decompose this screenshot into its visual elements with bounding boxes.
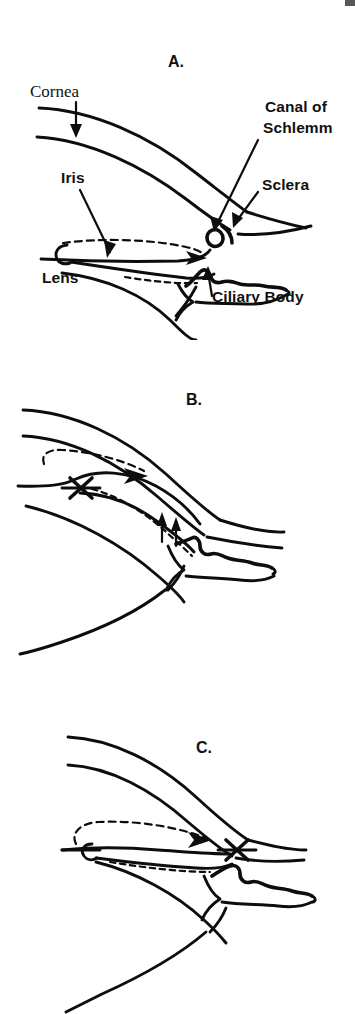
ciliary-body-processes [176,537,272,568]
panel-c-angle-closure: C. [0,680,355,1014]
ciliary-body-arrowhead [202,266,214,280]
scan-artifact [345,0,355,6]
panel-letter-a: A. [168,53,184,70]
sclera-inner-limb [207,537,282,548]
label-canal-of-schlemm-line1: Canal of [265,98,328,115]
ciliary-body-root [176,284,193,320]
cornea-outer-curve [23,410,220,520]
sclera-inner-limb [238,226,311,235]
cornea-inner-curve [68,765,232,856]
ciliary-body-pars-plana [222,902,312,907]
label-iris: Iris [61,169,85,186]
scleral-spur [312,896,315,902]
iris-posterior-surface [71,262,214,278]
aqueous-flow-anterior-dashed [63,240,205,255]
sclera-outer-limb [247,212,306,228]
label-lens: Lens [42,269,79,286]
label-canal-of-schlemm-line2: Schlemm [263,119,333,136]
label-cornea: Cornea [30,82,80,101]
cornea-arrowhead [70,124,82,138]
aqueous-flow-arrowhead [186,251,207,265]
ciliary-body-root [202,876,220,920]
panel-a-normal-anatomy: A. Cornea Canal of Schlemm Sclera Iris L… [0,40,355,340]
iris-anterior-surface [41,250,210,261]
label-sclera: Sclera [262,176,309,193]
ciliary-body-processes [212,865,312,896]
lens-posterior-capsule [66,932,206,1012]
lens-posterior-capsule [20,590,165,654]
lens-equator [210,908,226,932]
ciliary-body-processes [186,270,286,290]
panel-b-pupillary-block: B. [0,370,355,660]
panel-letter-b: B. [186,391,202,408]
cornea-outer-curve [39,108,247,212]
sclera-outer-limb [220,520,284,532]
iris-arrowhead [104,240,116,258]
scleral-spur [272,568,275,574]
figure-root: A. Cornea Canal of Schlemm Sclera Iris L… [0,0,355,1014]
aqueous-flow-arrowhead [188,832,212,848]
label-ciliary-body: Ciliary Body [212,288,304,305]
ciliary-body-pars-plana [186,576,274,581]
sclera-outer-limb [248,840,306,850]
aqueous-flow-anterior-dashed [74,822,206,844]
panel-letter-c: C. [196,739,212,756]
